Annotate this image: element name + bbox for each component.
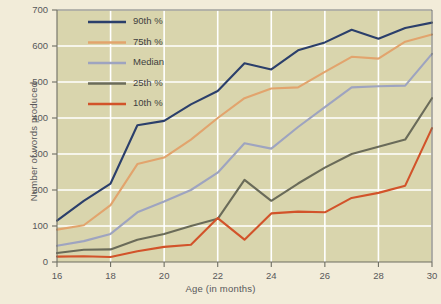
y-tick-label: 0 bbox=[14, 256, 48, 267]
chart-canvas bbox=[0, 0, 441, 304]
y-tick-label: 100 bbox=[14, 220, 48, 231]
x-tick-label: 18 bbox=[96, 270, 126, 281]
x-tick-label: 20 bbox=[149, 270, 179, 281]
x-axis-title: Age (in months) bbox=[0, 283, 441, 294]
x-tick-label: 16 bbox=[42, 270, 72, 281]
legend-label-25th: 25th % bbox=[133, 77, 163, 88]
x-tick-label: 22 bbox=[203, 270, 233, 281]
plot-area-background bbox=[57, 10, 432, 262]
y-tick-label: 300 bbox=[14, 148, 48, 159]
y-tick-label: 700 bbox=[14, 4, 48, 15]
legend-label-median: Median bbox=[133, 56, 164, 67]
legend-label-90th: 90th % bbox=[133, 15, 163, 26]
y-tick-label: 400 bbox=[14, 112, 48, 123]
y-tick-label: 600 bbox=[14, 40, 48, 51]
x-tick-label: 26 bbox=[310, 270, 340, 281]
y-tick-label: 200 bbox=[14, 184, 48, 195]
legend-label-75th: 75th % bbox=[133, 36, 163, 47]
x-tick-label: 30 bbox=[417, 270, 441, 281]
words-produced-line-chart: Number of words produced Age (in months)… bbox=[0, 0, 441, 304]
x-tick-label: 24 bbox=[256, 270, 286, 281]
legend-label-10th: 10th % bbox=[133, 97, 163, 108]
x-tick-label: 28 bbox=[363, 270, 393, 281]
y-tick-label: 500 bbox=[14, 76, 48, 87]
